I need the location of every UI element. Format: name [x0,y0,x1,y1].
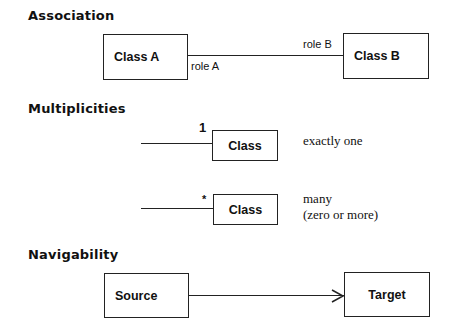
multiplicity-one-marker: 1 [199,120,206,135]
class-box-many: Class [213,194,278,225]
class-a-label: Class A [114,50,159,64]
class-label-exactly-one: Class [228,139,261,153]
open-arrow-icon [331,289,345,303]
class-label-many: Class [229,203,262,217]
many-description-line1: many [303,191,332,206]
many-description-line2: (zero or more) [303,207,378,222]
association-line [188,55,343,56]
target-label: Target [368,288,405,302]
role-a-label: role A [191,60,219,72]
source-box: Source [104,273,189,318]
navigability-line [189,295,344,296]
multiplicity-many-marker: * [202,193,206,205]
class-box-exactly-one: Class [212,130,278,161]
class-b-label: Class B [354,49,400,63]
association-heading: Association [28,8,114,23]
role-b-label: role B [303,38,332,50]
multiplicity-one-line [141,143,212,144]
multiplicity-many-line [141,208,213,209]
class-b-box: Class B [343,33,429,79]
source-label: Source [115,289,157,303]
exactly-one-description: exactly one [303,133,363,148]
target-box: Target [344,272,430,317]
class-a-box: Class A [103,34,188,80]
navigability-heading: Navigability [28,247,118,262]
multiplicities-heading: Multiplicities [28,101,126,116]
